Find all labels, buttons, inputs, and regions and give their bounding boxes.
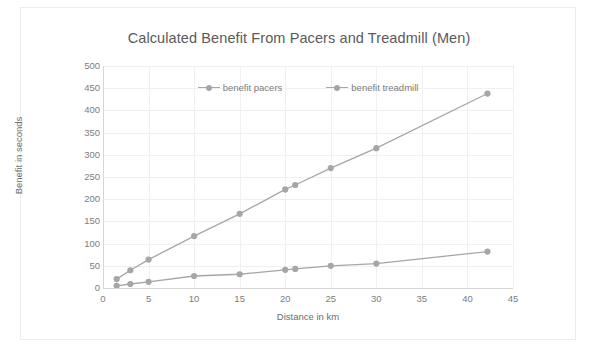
plot-area xyxy=(103,66,513,288)
y-tick-label: 450 xyxy=(60,82,100,93)
series-line xyxy=(117,252,488,286)
data-point-marker xyxy=(328,263,334,269)
y-axis-title: Benefit in seconds xyxy=(13,76,24,236)
legend-marker-icon xyxy=(326,84,348,92)
legend-item[interactable]: benefit pacers xyxy=(198,82,283,93)
x-tick-label: 5 xyxy=(129,293,169,304)
x-axis-title: Distance in km xyxy=(103,311,513,322)
y-tick-label: 0 xyxy=(60,282,100,293)
legend-label: benefit pacers xyxy=(223,82,283,93)
gridline-vertical xyxy=(513,66,514,288)
legend-label: benefit treadmill xyxy=(351,82,418,93)
y-tick-label: 300 xyxy=(60,149,100,160)
data-point-marker xyxy=(373,145,379,151)
y-tick-label: 100 xyxy=(60,238,100,249)
x-tick-label: 40 xyxy=(447,293,487,304)
y-tick-label: 50 xyxy=(60,260,100,271)
data-point-marker xyxy=(282,267,288,273)
x-tick-label: 20 xyxy=(265,293,305,304)
x-tick-label: 10 xyxy=(174,293,214,304)
data-point-marker xyxy=(145,279,151,285)
y-axis-line xyxy=(103,66,104,289)
x-tick-label: 30 xyxy=(356,293,396,304)
data-point-marker xyxy=(145,256,151,262)
data-point-marker xyxy=(282,186,288,192)
x-axis-line xyxy=(103,288,513,289)
data-point-marker xyxy=(191,233,197,239)
data-point-marker xyxy=(191,273,197,279)
series-line xyxy=(117,94,488,280)
chart-title: Calculated Benefit From Pacers and Tread… xyxy=(21,30,577,46)
data-point-marker xyxy=(127,267,133,273)
x-tick-label: 25 xyxy=(311,293,351,304)
data-point-marker xyxy=(127,281,133,287)
x-tick-label: 0 xyxy=(83,293,123,304)
data-point-marker xyxy=(237,271,243,277)
y-tick-label: 400 xyxy=(60,104,100,115)
x-tick-label: 35 xyxy=(402,293,442,304)
data-point-marker xyxy=(292,182,298,188)
data-point-marker xyxy=(237,211,243,217)
series-lines xyxy=(103,66,513,288)
data-point-marker xyxy=(114,276,120,282)
data-point-marker xyxy=(373,260,379,266)
y-tick-label: 150 xyxy=(60,215,100,226)
x-tick-label: 45 xyxy=(493,293,533,304)
data-point-marker xyxy=(328,165,334,171)
y-tick-label: 500 xyxy=(60,60,100,71)
legend-marker-icon xyxy=(198,84,220,92)
y-tick-label: 350 xyxy=(60,127,100,138)
x-tick-label: 15 xyxy=(220,293,260,304)
data-point-marker xyxy=(484,248,490,254)
y-tick-label: 200 xyxy=(60,193,100,204)
y-tick-label: 250 xyxy=(60,171,100,182)
legend-item[interactable]: benefit treadmill xyxy=(326,82,418,93)
chart-legend: benefit pacersbenefit treadmill xyxy=(103,82,513,93)
data-point-marker xyxy=(292,266,298,272)
